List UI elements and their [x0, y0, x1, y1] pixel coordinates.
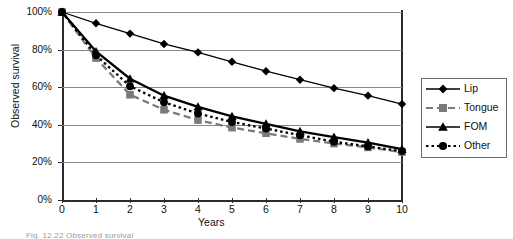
series-tongue [58, 8, 406, 156]
diamond-marker [439, 85, 448, 94]
series-other [58, 8, 406, 155]
square-marker [126, 91, 134, 99]
square-marker [422, 98, 464, 117]
diamond-marker [296, 75, 304, 83]
diamond-marker [194, 48, 202, 56]
legend-label: Tongue [464, 102, 498, 113]
square-marker [160, 106, 168, 114]
circle-marker [160, 98, 168, 106]
survival-chart-figure: 0%20%40%60%80%100% 012345678910 Observed… [0, 0, 513, 239]
circle-marker [126, 82, 134, 90]
series-lip [58, 8, 406, 109]
circle-marker [439, 142, 447, 150]
legend-item-lip[interactable]: Lip [422, 79, 506, 98]
diamond-marker [398, 100, 406, 108]
square-marker [439, 104, 447, 112]
legend-label: Lip [464, 83, 478, 94]
square-marker [194, 116, 202, 124]
figure-caption: Fig. 12.22 Observed survival [26, 231, 133, 239]
diamond-marker [330, 84, 338, 92]
triangle-marker [422, 117, 464, 136]
circle-marker [194, 110, 202, 118]
diamond-marker [422, 79, 464, 98]
legend-item-fom[interactable]: FOM [422, 117, 506, 136]
diamond-marker [92, 19, 100, 27]
legend-item-tongue[interactable]: Tongue [422, 98, 506, 117]
legend-label: FOM [464, 121, 487, 132]
legend-label: Other [464, 140, 490, 151]
diamond-marker [160, 40, 168, 48]
diamond-marker [126, 29, 134, 37]
circle-marker [422, 136, 464, 155]
chart-legend: LipTongueFOMOther [421, 78, 507, 158]
diamond-marker [364, 91, 372, 99]
diamond-marker [228, 58, 236, 66]
legend-item-other[interactable]: Other [422, 136, 506, 155]
diamond-marker [262, 67, 270, 75]
